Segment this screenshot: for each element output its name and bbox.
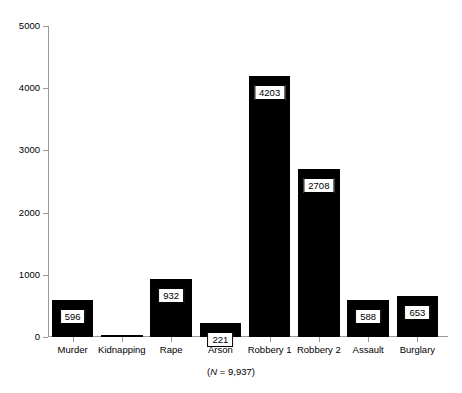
y-tick-2000 <box>43 213 48 214</box>
sample-size-annotation: (N = 9,937) <box>0 366 462 377</box>
x-tick-rape <box>171 337 172 342</box>
y-tick-4000 <box>43 88 48 89</box>
bar-kidnapping <box>101 335 142 337</box>
x-label-kidnapping: Kidnapping <box>97 344 146 355</box>
y-tick-label-2000: 2000 <box>19 208 40 218</box>
y-tick-label-0: 0 <box>35 332 40 342</box>
value-label-rape: 932 <box>158 288 184 303</box>
annotation-suffix: = 9,937) <box>217 366 255 377</box>
x-tick-robbery-1 <box>270 337 271 342</box>
y-tick-label-5000: 5000 <box>19 21 40 31</box>
bar-robbery-1 <box>249 76 290 337</box>
y-tick-label-4000: 4000 <box>19 83 40 93</box>
x-tick-assault <box>368 337 369 342</box>
y-tick-5000 <box>43 26 48 27</box>
value-label-burglary: 653 <box>404 305 430 320</box>
y-tick-label-1000: 1000 <box>19 270 40 280</box>
x-tick-kidnapping <box>122 337 123 342</box>
value-label-robbery-2: 2708 <box>303 178 334 193</box>
x-label-rape: Rape <box>147 344 196 355</box>
y-tick-label-3000: 3000 <box>19 145 40 155</box>
x-label-robbery-2: Robbery 2 <box>294 344 343 355</box>
y-axis-line <box>48 26 49 337</box>
bar-robbery-2 <box>298 169 339 337</box>
y-tick-1000 <box>43 275 48 276</box>
x-label-arson: Arson <box>196 344 245 355</box>
y-tick-3000 <box>43 150 48 151</box>
bar-chart: 010002000300040005000 596932221420327085… <box>0 0 462 393</box>
x-label-murder: Murder <box>48 344 97 355</box>
x-label-robbery-1: Robbery 1 <box>245 344 294 355</box>
x-label-assault: Assault <box>344 344 393 355</box>
value-label-robbery-1: 4203 <box>254 85 285 100</box>
x-tick-murder <box>73 337 74 342</box>
x-label-burglary: Burglary <box>393 344 442 355</box>
y-tick-0 <box>43 337 48 338</box>
value-label-murder: 596 <box>60 309 86 324</box>
value-label-assault: 588 <box>355 309 381 324</box>
x-tick-robbery-2 <box>319 337 320 342</box>
x-tick-burglary <box>417 337 418 342</box>
